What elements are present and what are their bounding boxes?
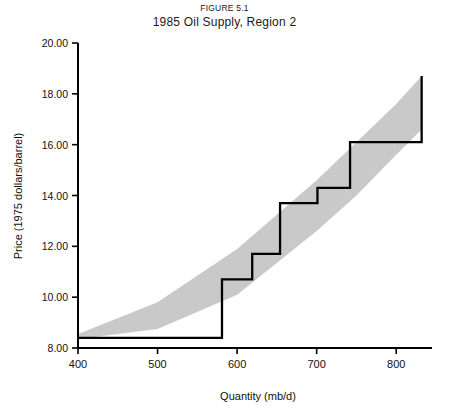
y-axis-tick-label: 20.00	[42, 37, 68, 49]
y-axis-ticks: 8.0010.0012.0014.0016.0018.0020.00	[42, 37, 78, 354]
y-axis-tick-label: 10.00	[42, 291, 68, 303]
y-axis-tick-label: 12.00	[42, 240, 68, 252]
x-axis-tick-label: 600	[228, 358, 246, 370]
figure-title: 1985 Oil Supply, Region 2	[0, 15, 449, 29]
y-axis-tick-label: 8.00	[48, 342, 69, 354]
figure-container: FIGURE 5.1 1985 Oil Supply, Region 2 8.0…	[0, 0, 449, 410]
chart-axes	[78, 43, 432, 348]
y-axis-title: Price (1975 dollars/barrel)	[12, 133, 24, 260]
figure-number: FIGURE 5.1	[0, 3, 449, 13]
x-axis-tick-label: 500	[148, 358, 166, 370]
y-axis-tick-label: 18.00	[42, 88, 68, 100]
y-axis-tick-label: 14.00	[42, 190, 68, 202]
supply-step-curve	[78, 76, 422, 338]
x-axis-tick-label: 700	[307, 358, 325, 370]
supply-curve-line	[78, 76, 422, 338]
x-axis-tick-label: 400	[69, 358, 87, 370]
uncertainty-band-shape	[78, 76, 422, 339]
x-axis-tick-label: 800	[387, 358, 405, 370]
x-axis-title: Quantity (mb/d)	[220, 390, 296, 402]
x-axis-ticks: 400500600700800	[69, 348, 406, 370]
oil-supply-chart: 8.0010.0012.0014.0016.0018.0020.00 40050…	[0, 0, 449, 410]
uncertainty-band	[78, 76, 422, 339]
y-axis-tick-label: 16.00	[42, 139, 68, 151]
